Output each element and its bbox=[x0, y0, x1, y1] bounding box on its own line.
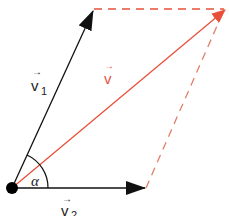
label-v2-subscript: 2 bbox=[71, 209, 77, 216]
label-v1-arrow: → bbox=[32, 66, 42, 77]
vector-diagram: → v 1 → v α → v 2 bbox=[0, 0, 229, 216]
label-v1: v bbox=[31, 77, 39, 94]
label-v2: v bbox=[61, 202, 69, 216]
label-alpha: α bbox=[31, 173, 40, 189]
dashed-right-line bbox=[146, 10, 224, 188]
vector-v-resultant bbox=[12, 10, 225, 188]
label-v: v bbox=[104, 70, 112, 87]
vector-v1 bbox=[12, 11, 93, 188]
label-v1-subscript: 1 bbox=[41, 85, 47, 97]
origin-point bbox=[6, 182, 18, 194]
